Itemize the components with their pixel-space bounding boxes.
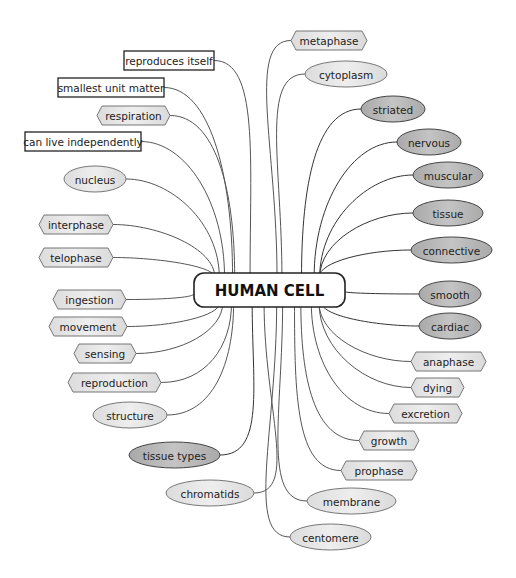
node-label: membrane <box>323 496 380 508</box>
node-sensing[interactable]: sensing <box>74 344 136 363</box>
node-label: movement <box>60 321 117 333</box>
node-respiration[interactable]: respiration <box>97 106 170 125</box>
connector-sensing <box>136 303 223 354</box>
node-label: muscular <box>424 170 473 182</box>
connector-structure <box>167 303 234 415</box>
node-label: dying <box>423 382 452 394</box>
node-cardiac[interactable]: cardiac <box>419 313 481 339</box>
node-ingestion[interactable]: ingestion <box>53 290 126 309</box>
node-label: sensing <box>85 348 125 360</box>
mind-map-diagram: reproduces itselfsmallest unit matterres… <box>0 0 516 578</box>
node-structure[interactable]: structure <box>93 402 167 428</box>
node-label: centomere <box>302 532 359 544</box>
connector-membrane <box>278 303 307 501</box>
node-label: respiration <box>105 110 161 122</box>
connector-metaphase <box>267 41 291 278</box>
node-label: can live independently <box>23 136 143 148</box>
node-label: reproduces itself <box>125 55 213 67</box>
node-label: cytoplasm <box>319 69 373 81</box>
node-tissue-types[interactable]: tissue types <box>129 442 220 468</box>
connector-dying <box>319 303 411 388</box>
node-tissue[interactable]: tissue <box>413 200 483 226</box>
node-label: tissue types <box>143 450 206 462</box>
node-anaphase[interactable]: anaphase <box>411 352 486 371</box>
node-label: anaphase <box>423 356 474 368</box>
connector-smooth <box>345 292 419 294</box>
node-label: ingestion <box>65 294 113 306</box>
node-smooth[interactable]: smooth <box>419 281 481 307</box>
node-striated[interactable]: striated <box>361 96 425 122</box>
connector-can-live-independently <box>141 142 225 278</box>
connector-growth <box>301 303 359 441</box>
node-nucleus[interactable]: nucleus <box>64 166 126 192</box>
node-label: nervous <box>408 137 450 149</box>
node-can-live-independently[interactable]: can live independently <box>23 132 143 151</box>
node-cytoplasm[interactable]: cytoplasm <box>305 61 387 87</box>
node-label: smooth <box>430 289 469 301</box>
connector-respiration <box>170 116 235 278</box>
node-interphase[interactable]: interphase <box>39 215 113 234</box>
node-label: interphase <box>48 219 104 231</box>
node-label: growth <box>371 435 408 447</box>
node-telophase[interactable]: telophase <box>39 248 113 267</box>
node-movement[interactable]: movement <box>49 317 127 336</box>
central-topic-label: HUMAN CELL <box>215 282 325 300</box>
connector-reproduces-itself <box>214 61 251 278</box>
node-label: connective <box>423 245 480 257</box>
connector-chromatids <box>254 303 277 493</box>
node-muscular[interactable]: muscular <box>413 162 483 188</box>
node-prophase[interactable]: prophase <box>341 461 417 480</box>
node-nervous[interactable]: nervous <box>397 129 461 155</box>
node-label: nucleus <box>75 174 116 186</box>
node-label: chromatids <box>181 488 240 500</box>
node-growth[interactable]: growth <box>359 431 419 450</box>
node-connective[interactable]: connective <box>411 237 492 263</box>
node-label: smallest unit matter <box>58 82 165 94</box>
connector-reproduction <box>161 303 232 383</box>
node-smallest-unit-matter[interactable]: smallest unit matter <box>58 78 165 97</box>
node-centomere[interactable]: centomere <box>290 524 371 550</box>
connector-tissue-types <box>220 303 254 455</box>
node-chromatids[interactable]: chromatids <box>166 480 254 506</box>
connector-nervous <box>314 142 397 277</box>
node-membrane[interactable]: membrane <box>307 488 396 514</box>
connector-anaphase <box>319 303 411 362</box>
node-label: structure <box>106 410 154 422</box>
node-excretion[interactable]: excretion <box>389 404 462 423</box>
diagram-canvas: reproduces itselfsmallest unit matterres… <box>0 0 516 578</box>
node-label: reproduction <box>81 377 148 389</box>
connector-ingestion <box>126 294 194 300</box>
node-label: metaphase <box>300 35 359 47</box>
node-label: tissue <box>432 208 463 220</box>
node-label: telophase <box>50 252 102 264</box>
node-dying[interactable]: dying <box>411 378 464 397</box>
central-topic[interactable]: HUMAN CELL <box>194 273 345 307</box>
node-label: excretion <box>401 408 450 420</box>
node-label: cardiac <box>431 321 469 333</box>
node-reproduction[interactable]: reproduction <box>68 373 161 392</box>
node-label: prophase <box>355 465 404 477</box>
connector-interphase <box>113 225 215 278</box>
node-reproduces-itself[interactable]: reproduces itself <box>124 51 214 70</box>
connector-cytoplasm <box>277 74 305 277</box>
connector-tissue <box>320 213 413 277</box>
node-metaphase[interactable]: metaphase <box>291 31 367 50</box>
node-label: striated <box>373 104 414 116</box>
connector-striated <box>302 109 361 277</box>
